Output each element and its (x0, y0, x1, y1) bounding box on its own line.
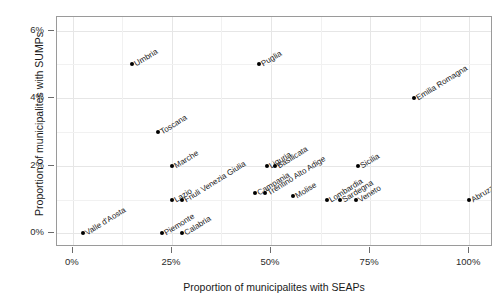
x-axis-tick-label: 0% (42, 256, 102, 267)
data-point-label: Emilia Romagna (414, 64, 469, 103)
y-axis-tick-label: 0% (0, 226, 44, 237)
x-axis-tick (72, 247, 73, 253)
x-axis-tick (270, 247, 271, 253)
gridline-vertical (271, 17, 272, 245)
y-axis-title: Proportion of municipalites with SUMPs (33, 0, 45, 249)
data-point-label: Umbria (133, 47, 160, 68)
gridline-vertical-minor (321, 17, 322, 245)
gridline-horizontal-minor (57, 132, 491, 133)
gridline-vertical (73, 17, 74, 245)
data-point-label: Marche (173, 148, 200, 170)
x-axis-tick (171, 247, 172, 253)
plot-panel: Valle d'AostaPiemonteCalabriaUmbriaTosca… (56, 16, 492, 246)
gridline-vertical-minor (221, 17, 222, 245)
y-axis-tick (48, 165, 54, 166)
y-axis-tick-label: 2% (0, 159, 44, 170)
gridline-vertical (370, 17, 371, 245)
gridline-horizontal-minor (57, 200, 491, 201)
y-axis-tick (48, 30, 54, 31)
x-axis-tick-label: 100% (438, 256, 498, 267)
y-axis-tick (48, 97, 54, 98)
gridline-vertical (469, 17, 470, 245)
x-axis-tick (468, 247, 469, 253)
x-axis-tick-label: 50% (240, 256, 300, 267)
gridline-vertical-minor (420, 17, 421, 245)
gridline-horizontal-minor (57, 64, 491, 65)
y-axis-tick-label: 6% (0, 24, 44, 35)
y-axis-tick-label: 4% (0, 91, 44, 102)
x-axis-tick (369, 247, 370, 253)
x-axis-tick-label: 75% (339, 256, 399, 267)
chart-root: Proportion of municipalites with SUMPs V… (0, 0, 501, 302)
y-axis-tick (48, 232, 54, 233)
gridline-vertical (172, 17, 173, 245)
x-axis-title: Proportion of municipalites with SEAPs (56, 281, 492, 293)
data-point-label: Molise (293, 181, 317, 201)
x-axis-tick-label: 25% (141, 256, 201, 267)
